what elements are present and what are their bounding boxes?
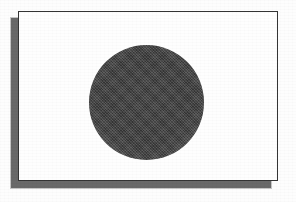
image-description: Grayscale scan of the flag of Japan: a w… — [0, 0, 1, 1]
image-canvas: Grayscale scan of the flag of Japan: a w… — [0, 0, 296, 202]
flag-of-japan — [18, 11, 278, 181]
disc-rim-shading — [89, 45, 204, 160]
hinomaru-disc — [89, 45, 204, 160]
